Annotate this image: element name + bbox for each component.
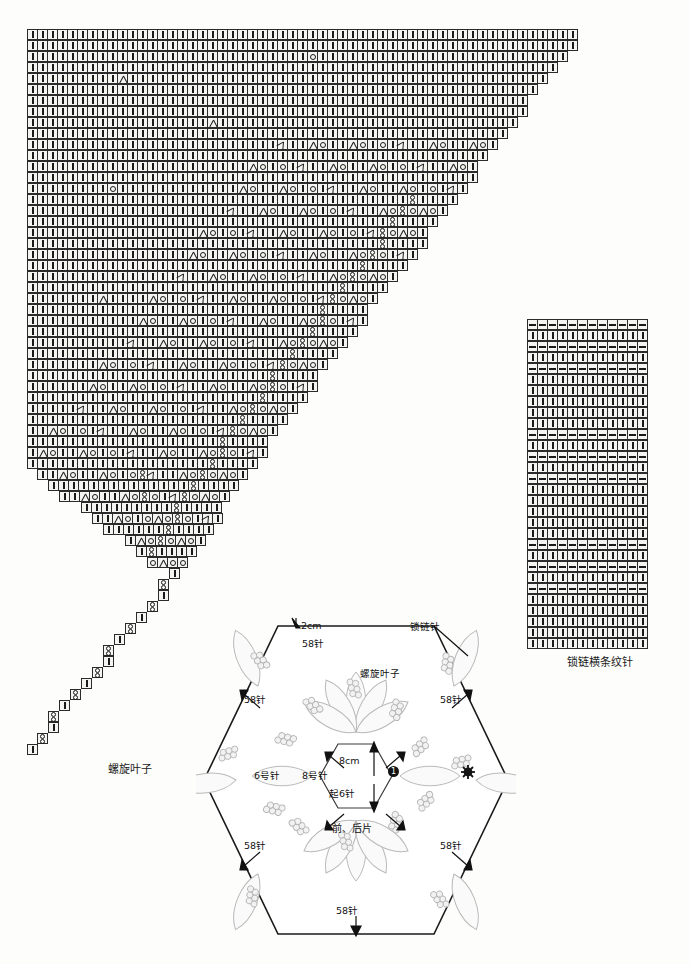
knit-stitch-symbol — [298, 261, 307, 270]
chart-cell-empty — [499, 293, 510, 304]
chart-cell-bar — [211, 502, 222, 513]
chart-cell-bar — [637, 484, 648, 495]
chart-cell-empty — [445, 304, 456, 315]
chart-cell-empty — [169, 689, 180, 700]
knit-stitch-symbol — [238, 283, 247, 292]
chart-cell-empty — [444, 447, 455, 458]
chart-cell-empty — [136, 733, 147, 744]
chart-cell-x — [92, 667, 103, 678]
knit-stitch-symbol — [248, 250, 257, 259]
chart-cell-empty — [299, 502, 310, 513]
chart-cell-empty — [576, 678, 587, 689]
chart-cell-empty — [362, 546, 373, 557]
chart-cell-empty — [548, 73, 559, 84]
knit-stitch-symbol — [568, 573, 577, 582]
knit-stitch-symbol — [298, 74, 307, 83]
knit-stitch-symbol — [98, 272, 107, 281]
knit-stitch-symbol — [148, 129, 157, 138]
knit-stitch-symbol — [188, 118, 197, 127]
knit-stitch-symbol — [528, 397, 537, 406]
knit-stitch-symbol — [188, 261, 197, 270]
knit-stitch-symbol — [308, 261, 317, 270]
chart-cell-empty — [428, 238, 439, 249]
knit-stitch-symbol — [438, 151, 447, 160]
knit-stitch-symbol — [378, 96, 387, 105]
right-decrease-symbol — [248, 228, 257, 237]
knit-stitch-symbol — [398, 239, 407, 248]
knit-stitch-symbol — [208, 30, 217, 39]
chart-cell-empty — [579, 194, 590, 205]
chart-cell-empty — [400, 293, 411, 304]
chart-cell-empty — [376, 414, 387, 425]
knit-stitch-symbol — [28, 316, 37, 325]
knit-stitch-symbol — [218, 184, 227, 193]
chart-cell-empty — [565, 711, 576, 722]
chart-cell-empty — [431, 271, 442, 282]
purl-stitch-symbol — [598, 452, 607, 461]
purl-stitch-symbol — [548, 342, 557, 351]
purl-stitch-symbol — [538, 584, 547, 593]
chart-cell-empty — [49, 645, 60, 656]
chart-cell-empty — [389, 579, 400, 590]
knit-stitch-symbol — [128, 272, 137, 281]
knit-stitch-symbol — [118, 459, 127, 468]
purl-stitch-symbol — [618, 540, 627, 549]
twisted-stitch-symbol — [368, 250, 377, 259]
knit-stitch-symbol — [248, 118, 257, 127]
knit-stitch-symbol — [170, 569, 179, 578]
chart-cell-empty — [191, 601, 202, 612]
chart-cell-empty — [524, 194, 535, 205]
knit-stitch-symbol — [458, 118, 467, 127]
knit-stitch-symbol — [128, 85, 137, 94]
knit-stitch-symbol — [568, 353, 577, 362]
chart-cell-empty — [279, 579, 290, 590]
knit-stitch-symbol — [398, 41, 407, 50]
chart-cell-empty — [188, 557, 199, 568]
chart-cell-empty — [499, 601, 510, 612]
knit-stitch-symbol — [318, 30, 327, 39]
knit-stitch-symbol — [598, 639, 607, 648]
chart-cell-empty — [402, 469, 413, 480]
knit-stitch-symbol — [558, 496, 567, 505]
chart-cell-empty — [115, 557, 126, 568]
chart-cell-empty — [543, 722, 554, 733]
chart-cell-empty — [379, 315, 390, 326]
chart-cell-empty — [283, 480, 294, 491]
chart-cell-empty — [38, 568, 49, 579]
twisted-stitch-symbol — [408, 195, 417, 204]
yarn-over-symbol — [368, 184, 377, 193]
knit-stitch-symbol — [188, 448, 197, 457]
yarn-over-symbol — [128, 360, 137, 369]
chart-cell-bar — [212, 513, 223, 524]
chart-cell-empty — [422, 436, 433, 447]
yarn-over-symbol — [68, 470, 77, 479]
knit-stitch-symbol — [148, 85, 157, 94]
yarn-over-symbol — [308, 360, 317, 369]
knit-stitch-symbol — [538, 331, 547, 340]
chart-cell-empty — [169, 579, 180, 590]
knit-stitch-symbol — [38, 283, 47, 292]
chart-cell-empty — [27, 645, 38, 656]
chart-cell-empty — [355, 425, 366, 436]
chart-cell-empty — [499, 590, 510, 601]
chart-cell-empty — [305, 480, 316, 491]
knit-stitch-symbol — [38, 151, 47, 160]
knit-stitch-symbol — [298, 118, 307, 127]
knit-stitch-symbol — [198, 305, 207, 314]
knit-stitch-symbol — [348, 195, 357, 204]
knit-stitch-symbol — [208, 294, 217, 303]
knit-stitch-symbol — [28, 360, 37, 369]
knit-stitch-symbol — [558, 606, 567, 615]
knit-stitch-symbol — [618, 496, 627, 505]
chart-cell-empty — [543, 689, 554, 700]
chart-cell-empty — [158, 656, 169, 667]
chart-cell-empty — [27, 502, 38, 513]
purl-stitch-symbol — [538, 430, 547, 439]
purl-stitch-symbol — [548, 474, 557, 483]
knit-stitch-symbol — [468, 151, 477, 160]
knit-stitch-symbol — [558, 518, 567, 527]
chart-cell-dash — [637, 319, 648, 330]
yarn-over-symbol — [168, 448, 177, 457]
knit-stitch-symbol — [298, 96, 307, 105]
chart-cell-empty — [93, 557, 104, 568]
